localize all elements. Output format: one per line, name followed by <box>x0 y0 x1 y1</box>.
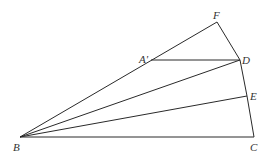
label-C: C <box>250 141 258 153</box>
geometry-diagram: B C E D F A' <box>0 0 272 159</box>
segment-D-F <box>217 22 240 60</box>
segments <box>20 22 254 137</box>
segment-C-E <box>247 96 254 137</box>
label-F: F <box>212 9 220 21</box>
label-E: E <box>249 90 257 102</box>
segment-B-F <box>20 22 217 137</box>
label-B: B <box>13 141 20 153</box>
label-A-prime: A' <box>138 53 149 65</box>
label-D: D <box>241 54 250 66</box>
segment-B-E <box>20 96 247 137</box>
segment-B-D <box>20 60 240 137</box>
